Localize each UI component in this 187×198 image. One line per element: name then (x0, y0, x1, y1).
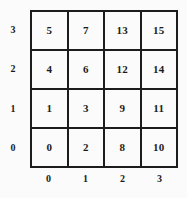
grid-diagram-figure: 3 2 1 0 5 7 13 15 4 6 12 (0, 0, 187, 198)
grid-cell: 13 (105, 12, 142, 51)
grid-cell-value: 11 (153, 103, 164, 114)
grid-cell: 8 (105, 129, 142, 168)
y-axis-tick-label: 0 (11, 143, 16, 153)
y-axis-tick: 1 (0, 89, 26, 129)
x-axis-tick: 0 (30, 170, 67, 192)
grid-cell: 14 (142, 51, 179, 90)
grid-cell-value: 10 (153, 142, 164, 153)
grid-cell: 2 (69, 129, 106, 168)
grid-cell: 12 (105, 51, 142, 90)
grid-cell-value: 1 (46, 103, 52, 114)
x-axis-tick: 3 (141, 170, 178, 192)
y-axis-tick-label: 1 (11, 104, 16, 114)
grid-cell-value: 3 (83, 103, 89, 114)
grid-cell-value: 8 (119, 142, 125, 153)
grid-cell-value: 13 (117, 25, 128, 36)
grid-cell: 15 (142, 12, 179, 51)
y-axis-tick-label: 2 (11, 64, 16, 74)
x-axis-tick-labels: 0 1 2 3 (30, 170, 178, 192)
grid-cell-value: 15 (153, 25, 164, 36)
x-axis-tick-label: 2 (120, 174, 125, 184)
grid-cell: 4 (32, 51, 69, 90)
grid-cell: 0 (32, 129, 69, 168)
y-axis-tick-labels: 3 2 1 0 (0, 10, 26, 168)
y-axis-tick: 2 (0, 50, 26, 90)
y-axis-tick: 0 (0, 129, 26, 169)
grid-cell-value: 0 (46, 142, 52, 153)
x-axis-tick: 1 (67, 170, 104, 192)
y-axis-tick: 3 (0, 10, 26, 50)
x-axis-tick-label: 1 (83, 174, 88, 184)
grid-cell-value: 6 (83, 64, 89, 75)
grid-cell-value: 5 (46, 25, 52, 36)
grid-cell: 1 (32, 90, 69, 129)
grid-cell: 9 (105, 90, 142, 129)
grid-table: 5 7 13 15 4 6 12 14 1 3 9 (30, 10, 178, 168)
x-axis-tick: 2 (104, 170, 141, 192)
grid-cell-value: 9 (119, 103, 125, 114)
x-axis-tick-label: 0 (46, 174, 51, 184)
grid-cell-value: 4 (46, 64, 52, 75)
grid-cell-value: 7 (83, 25, 89, 36)
grid-cell-value: 2 (83, 142, 89, 153)
y-axis-tick-label: 3 (11, 25, 16, 35)
grid-cell: 11 (142, 90, 179, 129)
grid-cell: 6 (69, 51, 106, 90)
grid-cell: 3 (69, 90, 106, 129)
x-axis-tick-label: 3 (157, 174, 162, 184)
grid-cell: 7 (69, 12, 106, 51)
grid-cell: 5 (32, 12, 69, 51)
grid-cell: 10 (142, 129, 179, 168)
grid-cell-value: 12 (117, 64, 128, 75)
grid-cell-value: 14 (153, 64, 164, 75)
